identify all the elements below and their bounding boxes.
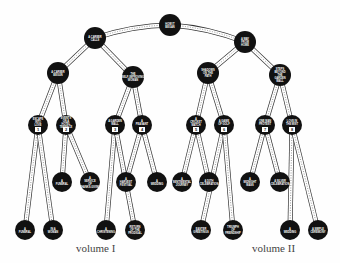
volume-1-label: volume I — [76, 242, 115, 254]
tree-node-l5c: ACHRISTENING — [96, 220, 116, 240]
node-label: CHRISTENING — [97, 230, 115, 234]
tree-node-a1: A CAREERBEGUN — [47, 62, 69, 84]
tree-node-n8: LOVE INTHE MIST8 — [282, 115, 302, 135]
node-label: WALL — [111, 122, 119, 126]
node-label: PROTEST — [259, 122, 272, 126]
node-label: CELEBRATION — [200, 182, 219, 186]
tree-node-l4c: AHARVESTFESTIVAL — [116, 172, 136, 192]
node-label: WALL — [276, 79, 284, 83]
tree-node-l5h: A SIMPLECEREMONY — [308, 220, 328, 240]
node-label: CELEBRATION — [271, 182, 290, 186]
node-label: FUNERAL — [56, 182, 69, 186]
tree-node-l5f: TRIUMPHOFFRIENDSHIP — [223, 220, 243, 240]
node-label: GREETINGS — [193, 230, 209, 234]
node-label: CEREMONY — [311, 230, 326, 234]
tree-diagram: HOW ITBEGANA CAREERCALLSA WAYFROMHOMEA C… — [0, 0, 340, 263]
tree-svg: HOW ITBEGANA CAREERCALLSA WAYFROMHOMEA C… — [0, 0, 340, 263]
edge-band-inner — [95, 25, 170, 38]
tree-node-b1: SHADOWSON THEPATH — [197, 62, 219, 84]
tree-node-n3: A GARDENWALL3 — [105, 115, 125, 135]
tree-node-l4b: ASERVICEOFTHANKS-GIVING — [80, 172, 101, 192]
tree-node-l5a: AFUNERAL — [15, 220, 35, 240]
tree-node-l4h: A SILVERCELEBRATION — [270, 172, 290, 192]
tree-node-n7: ONE MANPROTEST7 — [255, 115, 275, 135]
node-label: CALLS — [91, 38, 100, 42]
tree-node-l4a: AFUNERAL — [52, 172, 72, 192]
edge-band-inner — [292, 125, 318, 230]
tree-node-l4g: AMIDNIGHTMASS — [240, 172, 260, 192]
node-label: HOME — [241, 43, 249, 47]
tree-node-b2: STEPSBEYONDTHEGARDENWALL — [269, 64, 291, 86]
node-label: JOURNEY — [176, 183, 189, 187]
node-label: FUNERAL — [19, 230, 32, 234]
tree-node-n1: ESCAPEINTOLOVE1 — [28, 115, 48, 135]
tree-node-root: HOW ITBEGAN — [159, 14, 181, 36]
node-label: BEGUN — [53, 73, 62, 77]
node-label: THE MIST — [286, 122, 299, 126]
tree-node-n4: APEASANT4 — [132, 115, 152, 135]
node-label: WEDDING — [284, 230, 297, 234]
node-label: WEDDING — [151, 182, 164, 186]
tree-node-l4f: A 50THCELEBRATION — [199, 172, 219, 192]
nodes: HOW ITBEGANA CAREERCALLSA WAYFROMHOMEA C… — [15, 14, 328, 240]
tree-node-n5: ACRICKETMATCH5 — [186, 115, 206, 135]
tree-node-a2: THESELF-IMPROVINGWOMAN — [122, 66, 144, 88]
edge-band-inner — [170, 25, 245, 42]
tree-node-l5e: EASTERGREETINGS — [191, 220, 211, 240]
tree-node-l5g: AWEDDING — [280, 220, 300, 240]
tree-node-l5d: RETURNOF THEPRODIGAL — [125, 220, 145, 240]
node-label: FESTIVAL — [120, 183, 133, 187]
tree-node-l4d: AWEDDING — [147, 172, 167, 192]
tree-node-b: A WAYFROMHOME — [234, 31, 256, 53]
node-label: PRODIGAL — [128, 231, 142, 235]
node-label: BEGAN — [165, 25, 174, 29]
edge-text-hint — [38, 125, 53, 230]
node-label: PATH — [205, 74, 212, 78]
tree-node-n2: EVENTSON AHOTELTERRACE2 — [56, 115, 76, 135]
tree-node-l4e: ASENTIMENTALJOURNEY — [172, 172, 192, 192]
node-label: PEASANT — [136, 122, 149, 126]
node-label: OF GOLF — [218, 122, 230, 126]
node-label: FRIENDSHIP — [225, 231, 241, 235]
volume-2-label: volume II — [252, 242, 295, 254]
node-label: THANKS-GIVING — [80, 185, 101, 189]
tree-node-l5b: IN AWOMAN — [43, 220, 63, 240]
tree-node-a: A CAREERCALLS — [84, 27, 106, 49]
node-label: WOMAN — [48, 230, 58, 234]
tree-node-n6: A GAMEOF GOLF6 — [214, 115, 234, 135]
node-label: MASS — [246, 183, 254, 187]
node-label: WOMAN — [128, 78, 138, 82]
